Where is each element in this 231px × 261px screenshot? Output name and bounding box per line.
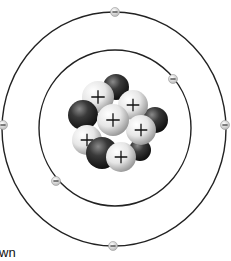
electron-outer (0, 121, 8, 130)
atom-diagram (0, 0, 231, 261)
electron-inner (169, 75, 178, 84)
electron-outer (109, 242, 118, 251)
electron-inner (52, 177, 61, 186)
electron-outer (221, 121, 230, 130)
electron-outer (111, 8, 120, 17)
proton (106, 142, 136, 172)
neutron (68, 100, 98, 130)
nucleus (68, 74, 168, 172)
proton (126, 115, 156, 145)
proton (97, 104, 129, 136)
caption-fragment: wn (0, 246, 16, 260)
